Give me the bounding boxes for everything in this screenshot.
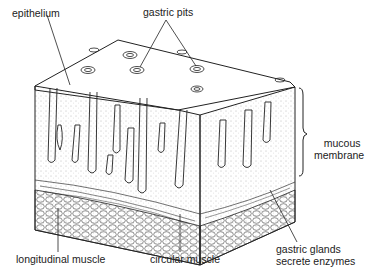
label-mucous-membrane: mucous membrane [314,137,364,161]
label-gastric-glands-line1: gastric glands [276,243,355,255]
mucous-membrane-brace [299,88,307,176]
label-epithelium: epithelium [12,7,60,19]
stomach-wall-diagram: epithelium gastric pits mucous membrane … [0,0,367,277]
label-longitudinal-muscle: longitudinal muscle [16,253,105,265]
label-gastric-pits: gastric pits [143,6,193,18]
label-mucous: mucous [314,137,364,149]
label-gastric-glands: gastric glands secrete enzymes [276,243,355,267]
label-membrane: membrane [314,149,364,161]
front-face [35,86,295,265]
diagram-drawing [0,0,367,277]
label-gastric-glands-line2: secrete enzymes [276,255,355,267]
label-circular-muscle: circular muscle [150,253,220,265]
